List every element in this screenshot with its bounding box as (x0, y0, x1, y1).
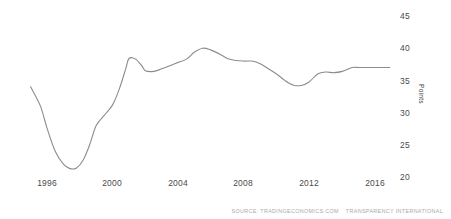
x-tick-label-2000: 2000 (92, 179, 132, 188)
x-tick-label-2012: 2012 (289, 179, 329, 188)
source-label: SOURCE: TRADINGECONOMICS.COM (231, 208, 338, 214)
x-tick-label-2008: 2008 (223, 179, 263, 188)
x-tick-label-2016: 2016 (355, 179, 395, 188)
y-tick-label-40: 40 (400, 44, 410, 53)
source-provider: TRANSPARENCY INTERNATIONAL (346, 208, 443, 214)
series-line-corruption-index (31, 48, 390, 169)
y-tick-label-45: 45 (400, 12, 410, 21)
y-tick-label-30: 30 (400, 109, 410, 118)
y-axis-title: Points (418, 84, 425, 104)
x-tick-label-2004: 2004 (158, 179, 198, 188)
y-tick-label-20: 20 (400, 173, 410, 182)
chart-container: 45 40 35 30 25 20 1996 2000 2004 2008 20… (0, 0, 451, 219)
y-tick-label-25: 25 (400, 141, 410, 150)
x-tick-label-1996: 1996 (27, 179, 67, 188)
source-attribution: SOURCE: TRADINGECONOMICS.COMTRANSPARENCY… (231, 209, 443, 214)
y-tick-label-35: 35 (400, 77, 410, 86)
